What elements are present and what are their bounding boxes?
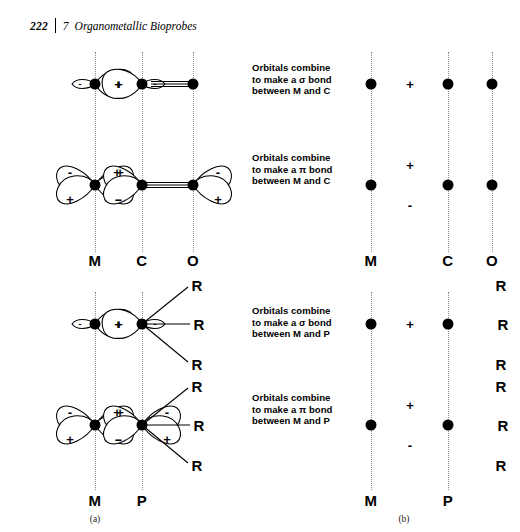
- caption-line: Orbitals combine: [252, 62, 332, 74]
- atom-o-pi-mc-b: [487, 180, 498, 191]
- axis-label-o: O: [486, 252, 498, 269]
- orbital-sign-minus: -: [154, 80, 157, 89]
- atom-c-pi-mc-a: [137, 180, 148, 191]
- atom-m-pi-mc-a: [90, 180, 101, 191]
- axis-label-m: M: [365, 252, 378, 269]
- orbital-sign-plus: +: [214, 193, 222, 206]
- atom-m-sigma-mc-b: [366, 79, 377, 90]
- atom-p-sigma-mp-a: [137, 319, 148, 330]
- caption-line: Orbitals combine: [252, 392, 332, 404]
- orbital-sign-plus: +: [115, 318, 123, 331]
- subfigure-caption-a: (a): [90, 514, 101, 524]
- caption-line: between M and C: [252, 175, 332, 187]
- substituent-label-r: R: [192, 356, 203, 373]
- atom-o-sigma-mc-a: [188, 79, 199, 90]
- atom-m-sigma-mc-a: [90, 79, 101, 90]
- orbital-sign-plus: +: [115, 78, 123, 91]
- subfigure-caption-b: (b): [398, 514, 409, 524]
- orbital-sign-plus: +: [66, 193, 74, 206]
- caption-line: to make a π bond: [252, 404, 332, 416]
- atom-o-pi-mc-a: [188, 180, 199, 191]
- figure-page: 222 7Organometallic Bioprobes - + + - Or…: [0, 0, 520, 532]
- orbital-sign-minus: -: [115, 433, 119, 446]
- running-head: 222 7Organometallic Bioprobes: [30, 18, 197, 33]
- orbital-sign-plus: +: [113, 406, 121, 419]
- atom-c-sigma-mc-b: [443, 79, 454, 90]
- substituent-label-r: R: [496, 457, 507, 474]
- substituent-label-r: R: [498, 316, 509, 333]
- axis-label-o: O: [187, 252, 199, 269]
- orbital-sign-plus: +: [406, 78, 414, 91]
- orbital-sign-minus: -: [154, 320, 157, 329]
- atom-c-sigma-mc-a: [137, 79, 148, 90]
- caption-line: to make a σ bond: [252, 74, 332, 86]
- axis-label-m: M: [365, 492, 378, 509]
- orbital-sign-minus: -: [68, 406, 72, 419]
- orbital-sign-plus: +: [406, 318, 414, 331]
- substituent-label-r: R: [496, 378, 507, 395]
- atom-m-sigma-mp-a: [90, 319, 101, 330]
- substituent-label-r: R: [192, 277, 203, 294]
- orbital-sign-plus: +: [163, 433, 171, 446]
- atom-p-pi-mp-b: [443, 420, 454, 431]
- orbital-sign-minus: -: [79, 320, 82, 329]
- orbital-sign-minus: -: [115, 193, 119, 206]
- substituent-label-r: R: [192, 457, 203, 474]
- caption-pi-mc: Orbitals combine to make a π bond betwee…: [252, 152, 332, 187]
- substituent-label-r: R: [194, 417, 205, 434]
- orbital-sign-plus: +: [113, 166, 121, 179]
- caption-line: Orbitals combine: [252, 305, 332, 317]
- caption-sigma-mp: Orbitals combine to make a σ bond betwee…: [252, 305, 332, 340]
- substituent-label-r: R: [498, 417, 509, 434]
- orbital-sign-minus: -: [216, 166, 220, 179]
- head-divider: [55, 18, 56, 33]
- orbital-sign-minus: -: [408, 199, 412, 212]
- atom-p-pi-mp-a: [137, 420, 148, 431]
- axis-label-c: C: [442, 252, 453, 269]
- chapter-number: 7: [63, 20, 69, 32]
- caption-line: to make a π bond: [252, 164, 332, 176]
- orbital-sign-plus: +: [66, 433, 74, 446]
- orbital-sign-minus: -: [68, 166, 72, 179]
- orbital-sign-minus: -: [79, 80, 82, 89]
- orbital-sign-plus: +: [406, 399, 414, 412]
- substituent-label-r: R: [496, 356, 507, 373]
- axis-label-p: P: [443, 492, 454, 509]
- caption-line: to make a σ bond: [252, 317, 332, 329]
- substituent-label-r: R: [496, 277, 507, 294]
- caption-line: between M and C: [252, 85, 332, 97]
- axis-label-p: P: [137, 492, 148, 509]
- axis-label-m: M: [89, 492, 102, 509]
- caption-line: between M and P: [252, 415, 332, 427]
- substituent-label-r: R: [192, 378, 203, 395]
- chapter-title: 7Organometallic Bioprobes: [63, 20, 197, 32]
- atom-c-pi-mc-b: [443, 180, 454, 191]
- orbital-sign-minus: -: [408, 439, 412, 452]
- substituent-label-r: R: [194, 316, 205, 333]
- atom-m-pi-mp-a: [90, 420, 101, 431]
- atom-m-sigma-mp-b: [366, 319, 377, 330]
- orbital-sign-plus: +: [406, 159, 414, 172]
- caption-line: between M and P: [252, 328, 332, 340]
- atom-m-pi-mp-b: [366, 420, 377, 431]
- orbital-sign-minus: -: [165, 406, 169, 419]
- axis-label-m: M: [89, 252, 102, 269]
- caption-line: Orbitals combine: [252, 152, 332, 164]
- atom-o-sigma-mc-b: [487, 79, 498, 90]
- axis-label-c: C: [136, 252, 147, 269]
- atom-p-sigma-mp-b: [443, 319, 454, 330]
- chapter-title-text: Organometallic Bioprobes: [75, 20, 197, 32]
- caption-pi-mp: Orbitals combine to make a π bond betwee…: [252, 392, 332, 427]
- page-number: 222: [30, 20, 48, 32]
- atom-m-pi-mc-b: [366, 180, 377, 191]
- caption-sigma-mc: Orbitals combine to make a σ bond betwee…: [252, 62, 332, 97]
